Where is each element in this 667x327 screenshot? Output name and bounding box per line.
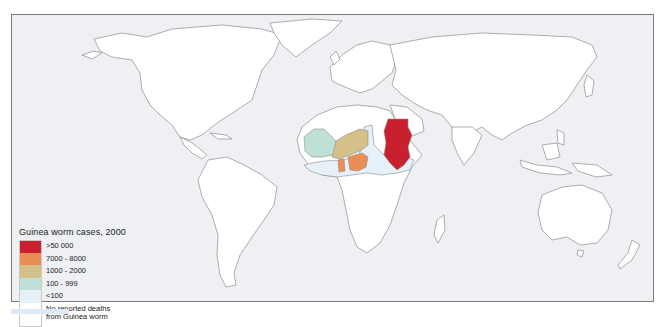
indonesia — [520, 160, 572, 175]
tasmania — [577, 250, 584, 257]
legend-item-1000-2000: 1000 - 2000 — [19, 265, 219, 278]
legend-label: 100 - 999 — [46, 278, 78, 288]
legend-label: <100 — [46, 290, 63, 300]
aleutians — [82, 51, 102, 59]
legend-swatch — [19, 278, 42, 291]
decorative-strip — [11, 309, 69, 314]
legend-item-no-deaths: No reported deaths from Guinea worm — [19, 303, 219, 327]
legend-item-7000-8000: 7000 - 8000 — [19, 253, 219, 266]
central-america — [180, 137, 207, 159]
legend-swatch — [19, 303, 42, 327]
japan — [584, 75, 594, 97]
region-ghana — [338, 159, 345, 172]
caribbean — [210, 133, 232, 139]
north-america — [94, 25, 282, 140]
legend-swatch — [19, 240, 42, 253]
legend-swatch — [19, 253, 42, 266]
australia — [538, 185, 612, 245]
india — [452, 127, 482, 165]
legend-item-gt50000: >50 000 — [19, 240, 219, 253]
madagascar — [434, 215, 445, 243]
greenland — [270, 19, 342, 57]
europe — [330, 41, 397, 93]
legend-swatch — [19, 290, 42, 303]
legend-title: Guinea worm cases, 2000 — [19, 227, 219, 237]
legend-item-lt100: <100 — [19, 290, 219, 303]
borneo — [542, 143, 560, 160]
new-zealand — [618, 240, 640, 269]
world-map-frame: Guinea worm cases, 2000 >50 000 7000 - 8… — [11, 14, 654, 302]
legend-label: 1000 - 2000 — [46, 265, 86, 275]
legend-item-100-999: 100 - 999 — [19, 278, 219, 291]
new-guinea — [572, 163, 612, 177]
legend-swatch — [19, 265, 42, 278]
legend-label: 7000 - 8000 — [46, 253, 86, 263]
philippines — [557, 130, 564, 145]
legend-label: >50 000 — [46, 240, 73, 250]
